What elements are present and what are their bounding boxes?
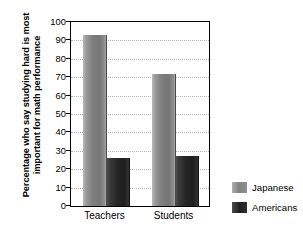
y-axis-tick-mark — [66, 150, 70, 151]
y-axis-title-line-1: Percentage who say studying hard is most — [21, 13, 32, 198]
x-axis-tick-label-teachers: Teachers — [84, 210, 125, 221]
bar-japanese-teachers — [83, 35, 107, 206]
legend-label-americans: Americans — [252, 202, 297, 213]
legend-item-americans: Americans — [232, 199, 300, 216]
bar-japanese-students — [152, 74, 176, 206]
y-axis-tick-label: 70 — [44, 71, 66, 82]
y-axis-tick-label: 90 — [44, 34, 66, 45]
y-axis-tick-label: 50 — [44, 108, 66, 119]
y-axis-tick-mark — [66, 187, 70, 188]
y-axis-tick-labels: 0102030405060708090100 — [44, 15, 66, 207]
y-axis-tick-mark — [66, 76, 70, 77]
bar-americans-teachers — [106, 158, 130, 206]
y-axis-tick-label: 30 — [44, 144, 66, 155]
y-axis-tick-mark — [66, 58, 70, 59]
y-axis-tick-mark — [66, 113, 70, 114]
y-axis-tick-label: 10 — [44, 181, 66, 192]
bar-americans-students — [175, 156, 199, 206]
legend-item-japanese: Japanese — [232, 179, 300, 196]
bars-layer — [71, 22, 209, 206]
y-axis-tick-label: 80 — [44, 52, 66, 63]
y-axis-tick-mark — [66, 168, 70, 169]
x-axis-tick-labels: TeachersStudents — [70, 210, 210, 226]
bar-chart: Percentage who say studying hard is most… — [0, 0, 303, 241]
y-axis-title-line-2: important for math performance — [32, 36, 43, 175]
y-axis-tick-mark — [66, 39, 70, 40]
y-axis-tick-label: 0 — [44, 200, 66, 211]
y-axis-tick-label: 40 — [44, 126, 66, 137]
y-axis-tick-mark — [66, 131, 70, 132]
y-axis-tick-label: 100 — [44, 16, 66, 27]
y-axis-tick-mark — [66, 205, 70, 206]
x-axis-tick-label-students: Students — [154, 210, 193, 221]
y-axis-tick-label: 20 — [44, 163, 66, 174]
y-axis-tick-label: 60 — [44, 89, 66, 100]
legend: JapaneseAmericans — [232, 179, 300, 219]
legend-swatch-americans — [232, 202, 247, 213]
y-axis-tick-mark — [66, 21, 70, 22]
y-axis-tick-mark — [66, 95, 70, 96]
plot-area — [70, 21, 210, 207]
legend-swatch-japanese — [232, 182, 247, 193]
legend-label-japanese: Japanese — [252, 182, 294, 193]
